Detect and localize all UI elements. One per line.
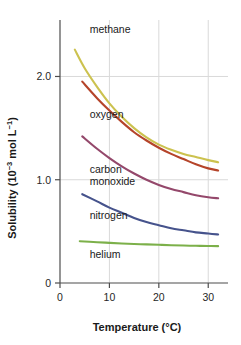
chart-plot-area: 010203001.02.0 methaneoxygencarbonmonoxi… [0, 0, 241, 345]
x-tick-label-0: 0 [57, 291, 63, 303]
y-tick-label-0: 0 [45, 277, 51, 289]
series-label-line-2: monoxide [90, 175, 136, 187]
series-label-nitrogen: nitrogen [90, 209, 128, 221]
solubility-chart: 010203001.02.0 methaneoxygencarbonmonoxi… [0, 0, 241, 345]
x-tick-label-10: 10 [104, 291, 116, 303]
y-axis-title-prefix: Solubility (10 [6, 170, 18, 238]
y-axis-title: Solubility (10−3 mol L−1) [5, 117, 18, 239]
series-label-oxygen: oxygen [90, 108, 124, 120]
series-label-helium: helium [90, 248, 121, 260]
x-axis-title: Temperature (°C) [93, 321, 182, 333]
y-axis-title-mid: mol L [6, 129, 18, 162]
y-axis-title-suffix: ) [6, 117, 18, 121]
y-axis-title-exponent-1: −3 [5, 162, 14, 171]
x-tick-label-20: 20 [153, 291, 165, 303]
x-tick-label-30: 30 [202, 291, 214, 303]
series-label-line-1: carbon [90, 163, 122, 175]
y-tick-label-1: 1.0 [36, 174, 51, 186]
y-axis-title-exponent-2: −1 [5, 121, 14, 130]
y-tick-label-2: 2.0 [36, 70, 51, 82]
series-label-methane: methane [90, 23, 131, 35]
